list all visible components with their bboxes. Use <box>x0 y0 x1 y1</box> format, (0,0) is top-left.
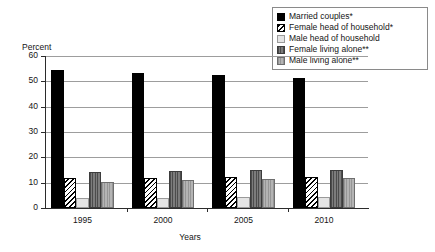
y-tick-mark-10 <box>41 183 45 184</box>
bar-female-alone-2010 <box>330 170 343 209</box>
y-tick-mark-60 <box>41 56 45 57</box>
y-tick-label-30: 30 <box>16 127 38 136</box>
y-tick-mark-30 <box>41 132 45 133</box>
bar-female-alone-2000 <box>169 171 182 208</box>
y-tick-mark-0 <box>41 208 45 209</box>
bar-married-2010 <box>293 78 306 208</box>
bar-female-alone-2005 <box>250 170 263 208</box>
y-tick-label-0: 0 <box>16 203 38 212</box>
x-axis-title: Years <box>0 232 380 242</box>
legend-label-female-head-of-household: Female head of household* <box>289 22 393 33</box>
y-tick-label-40: 40 <box>16 102 38 111</box>
legend-item-female-living-alone: Female living alone** <box>277 44 423 55</box>
bar-male-alone-2005 <box>262 179 275 208</box>
x-tick-label-2000: 2000 <box>138 215 188 225</box>
bar-married-2000 <box>132 73 145 208</box>
x-tick-mark-2 <box>207 208 208 212</box>
y-tick-mark-40 <box>41 107 45 108</box>
y-tick-label-50: 50 <box>16 76 38 85</box>
bar-male-alone-2010 <box>343 178 356 208</box>
bar-male-alone-2000 <box>182 180 195 208</box>
bar-male-head-2010 <box>318 197 331 208</box>
y-tick-mark-20 <box>41 157 45 158</box>
bar-male-head-1995 <box>76 198 89 208</box>
bar-female-head-2000 <box>144 178 157 208</box>
bar-male-head-2000 <box>157 198 170 208</box>
legend-swatch-female-living-alone <box>277 46 285 54</box>
y-tick-label-10: 10 <box>16 178 38 187</box>
legend-item-married-couples: Married couples* <box>277 11 423 22</box>
bar-chart: Married couples* Female head of househol… <box>0 0 435 252</box>
legend-item-female-head-of-household: Female head of household* <box>277 22 423 33</box>
bar-female-head-2010 <box>305 177 318 208</box>
bar-male-alone-1995 <box>101 182 114 208</box>
y-tick-mark-50 <box>41 81 45 82</box>
legend-label-male-head-of-household: Male head of household <box>289 33 380 44</box>
bar-married-1995 <box>51 70 64 208</box>
bar-female-alone-1995 <box>89 172 102 208</box>
bar-female-head-1995 <box>64 178 77 208</box>
x-tick-label-2010: 2010 <box>299 215 349 225</box>
legend-swatch-female-head-of-household <box>277 24 285 32</box>
x-tick-label-2005: 2005 <box>219 215 269 225</box>
legend-swatch-married-couples <box>277 13 285 21</box>
plot-area <box>46 56 368 208</box>
y-tick-label-60: 60 <box>16 51 38 60</box>
x-tick-mark-1 <box>127 208 128 212</box>
legend-label-female-living-alone: Female living alone** <box>289 44 369 55</box>
x-tick-mark-3 <box>288 208 289 212</box>
y-tick-label-20: 20 <box>16 152 38 161</box>
bar-male-head-2005 <box>237 197 250 208</box>
x-tick-label-1995: 1995 <box>58 215 108 225</box>
legend-swatch-male-head-of-household <box>277 35 285 43</box>
legend-label-married-couples: Married couples* <box>289 11 353 22</box>
legend-item-male-head-of-household: Male head of household <box>277 33 423 44</box>
bar-female-head-2005 <box>225 177 238 208</box>
bar-married-2005 <box>212 75 225 208</box>
